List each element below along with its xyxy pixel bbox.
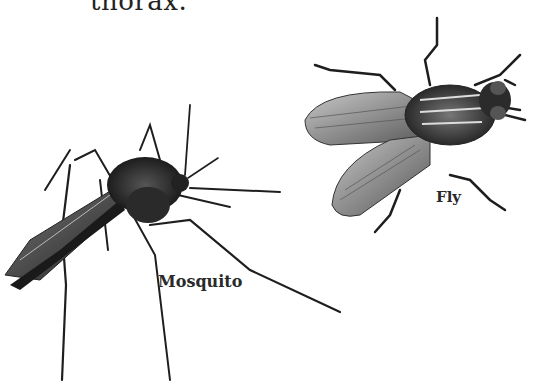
mosquito-illustration-icon <box>0 0 550 385</box>
mosquito-label: Mosquito <box>158 272 242 291</box>
fly-label: Fly <box>436 188 461 206</box>
